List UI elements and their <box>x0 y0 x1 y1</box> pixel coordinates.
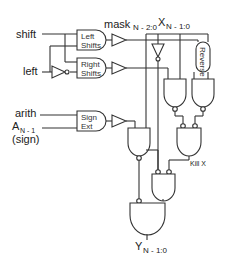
inverter-left <box>52 66 69 78</box>
svg-text:Right: Right <box>81 60 100 69</box>
nand-gate-middle <box>152 170 175 201</box>
nand-gate-2 <box>192 79 214 111</box>
nand-gate-1 <box>164 79 186 111</box>
block-right-shifts: Right Shifts <box>77 58 106 78</box>
label-kill-x: Kill X <box>190 160 206 167</box>
input-label-left: left <box>23 65 38 77</box>
inverter-x <box>152 44 164 61</box>
svg-text:Y: Y <box>135 240 143 252</box>
wires-kill <box>175 111 203 124</box>
svg-text:N - 1:0: N - 1:0 <box>143 246 168 255</box>
svg-text:A: A <box>12 120 20 132</box>
nor-gate-output <box>130 199 165 240</box>
output-label-y: Y N - 1:0 <box>135 240 168 255</box>
svg-text:Ext: Ext <box>81 122 93 131</box>
svg-text:X: X <box>158 16 166 28</box>
svg-text:Reverse: Reverse <box>198 47 207 77</box>
svg-text:Sign: Sign <box>81 113 97 122</box>
svg-text:Left: Left <box>81 32 95 41</box>
input-label-sign: (sign) <box>12 133 40 145</box>
block-sign-ext: Sign Ext <box>77 111 106 131</box>
nand-gate-sign <box>128 128 150 160</box>
bus-label-x: X N - 1:0 <box>158 16 191 31</box>
svg-text:N - 1:0: N - 1:0 <box>166 22 191 31</box>
bus-label-mask: mask N - 2:0 <box>104 18 158 32</box>
svg-text:mask: mask <box>104 18 131 30</box>
svg-text:Shifts: Shifts <box>81 41 101 50</box>
input-label-a-msb: A N - 1 <box>12 120 35 134</box>
circuit-diagram: shift left arith A N - 1 (sign) mask N -… <box>0 0 230 259</box>
block-left-shifts: Left Shifts <box>77 30 106 50</box>
nor-gate-kill <box>177 124 201 156</box>
buffers <box>106 34 126 127</box>
svg-text:Shifts: Shifts <box>81 69 101 78</box>
input-label-shift: shift <box>16 28 36 40</box>
wires-inputs <box>40 34 77 128</box>
svg-text:N - 2:0: N - 2:0 <box>133 23 158 32</box>
block-reverse: Reverse <box>196 42 210 77</box>
input-label-arith: arith <box>15 107 36 119</box>
